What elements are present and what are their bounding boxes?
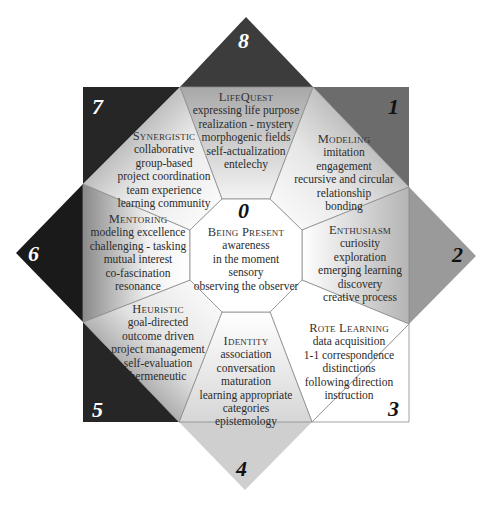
enthusiasm-line: curiosity (300, 237, 420, 250)
number-1: 1 (388, 96, 399, 118)
mentoring-title: Mentoring (86, 213, 190, 226)
number-8: 8 (238, 30, 249, 52)
center-line: sensory (186, 266, 306, 279)
number-6: 6 (28, 243, 39, 265)
mentoring-line: modeling excellence (86, 226, 190, 239)
enthusiasm-line: creative process (300, 291, 420, 304)
tip-6 (16, 184, 83, 322)
heuristic-text: Heuristic goal-directed outcome driven p… (108, 303, 208, 383)
synergistic-line: learning community (110, 197, 218, 210)
number-7: 7 (92, 96, 103, 118)
heuristic-line: hermeneutic (108, 370, 208, 383)
synergistic-line: project coordination (110, 170, 218, 183)
lifequest-title: LifeQuest (176, 91, 316, 104)
synergistic-title: Synergistic (110, 130, 218, 143)
mentoring-line: resonance (86, 280, 190, 293)
modeling-text: Modeling imitation engagement recursive … (274, 133, 414, 213)
center-line: awareness (186, 239, 306, 252)
modeling-line: imitation (274, 146, 414, 159)
heuristic-line: goal-directed (108, 316, 208, 329)
lifequest-line: expressing life purpose (176, 104, 316, 117)
center-line: observing the observer (186, 280, 306, 293)
synergistic-text: Synergistic collaborative group-based pr… (110, 130, 218, 210)
enthusiasm-line: discovery (300, 278, 420, 291)
mentoring-text: Mentoring modeling excellence challengin… (86, 213, 190, 293)
modeling-line: bonding (274, 200, 414, 213)
mentoring-line: challenging - tasking (86, 240, 190, 253)
number-0: 0 (238, 198, 249, 224)
synergistic-line: team experience (110, 184, 218, 197)
identity-line: learning appropriate (180, 389, 312, 402)
number-2: 2 (452, 244, 463, 266)
modeling-line: engagement (274, 160, 414, 173)
identity-line: epistemology (180, 415, 312, 428)
center-title: Being Present (186, 226, 306, 239)
mentoring-line: co-fascination (86, 267, 190, 280)
enthusiasm-line: exploration (300, 251, 420, 264)
heuristic-line: outcome driven (108, 330, 208, 343)
modeling-title: Modeling (274, 133, 414, 146)
number-5: 5 (92, 399, 103, 421)
synergistic-line: group-based (110, 157, 218, 170)
enthusiasm-title: Enthusiasm (300, 224, 420, 237)
synergistic-line: collaborative (110, 143, 218, 156)
identity-line: categories (180, 402, 312, 415)
mentoring-line: mutual interest (86, 253, 190, 266)
enthusiasm-line: emerging learning (300, 264, 420, 277)
heuristic-title: Heuristic (108, 303, 208, 316)
heuristic-line: self-evaluation (108, 357, 208, 370)
center-line: in the moment (186, 253, 306, 266)
heuristic-line: project management (108, 343, 208, 356)
modeling-line: relationship (274, 187, 414, 200)
rote-learning-title: Rote Learning (284, 322, 414, 335)
number-4: 4 (236, 458, 247, 480)
modeling-line: recursive and circular (274, 173, 414, 186)
center-text: Being Present awareness in the moment se… (186, 226, 306, 293)
enthusiasm-text: Enthusiasm curiosity exploration emergin… (300, 224, 420, 304)
